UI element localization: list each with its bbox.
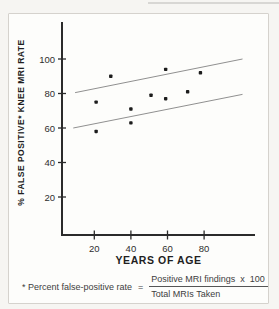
fraction-denominator: Total MRIs Taken [149, 287, 268, 299]
fraction-numerator: Positive MRI findings x 100 [149, 274, 268, 287]
x-tick-label: 40 [126, 243, 137, 254]
data-point [109, 75, 112, 78]
data-point [164, 68, 167, 71]
page-artifact-line [148, 2, 279, 4]
x-tick-label: 60 [162, 243, 173, 254]
data-point [149, 94, 152, 97]
x-tick-label: 20 [89, 243, 100, 254]
y-tick-label: 60 [44, 123, 55, 134]
page: { "figure": { "y_axis_label": "% FALSE P… [0, 0, 279, 309]
data-point [199, 71, 202, 74]
footnote-text: * Percent false-positive rate [22, 282, 132, 292]
y-tick-label: 40 [44, 157, 55, 168]
data-point [94, 100, 97, 103]
y-axis-title: % FALSE POSITIVE* KNEE MRI RATE [14, 28, 29, 218]
footnote: * Percent false-positive rate = Positive… [22, 274, 268, 299]
data-point [94, 130, 97, 133]
footnote-fraction: Positive MRI findings x 100 Total MRIs T… [149, 274, 268, 299]
y-tick-label: 20 [44, 192, 55, 203]
data-point [164, 97, 167, 100]
figure-panel: 2040608010020406080 % FALSE POSITIVE* KN… [8, 13, 269, 304]
y-tick-label: 80 [44, 88, 55, 99]
band-line [75, 59, 242, 93]
x-tick-label: 80 [199, 243, 210, 254]
equals-sign: = [137, 282, 144, 292]
data-point [186, 90, 189, 93]
data-point [129, 107, 132, 110]
x-axis-title: YEARS OF AGE [62, 254, 255, 266]
band-line [73, 94, 242, 128]
y-tick-label: 100 [39, 54, 55, 65]
data-point [129, 121, 132, 124]
